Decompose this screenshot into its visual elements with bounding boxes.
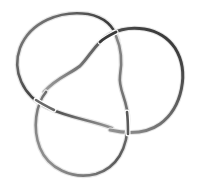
trefoil-knot-drawing: [0, 0, 203, 186]
top-left-lobe: [17, 13, 118, 128]
trefoil-knot-figure: Trefoil knot: [0, 0, 203, 186]
